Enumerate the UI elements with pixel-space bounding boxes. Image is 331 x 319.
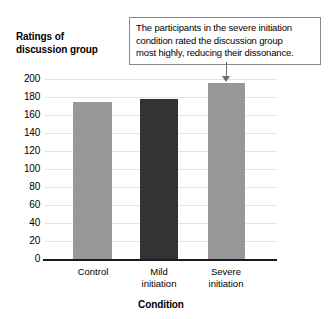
annotation-line-1: The participants in the severe initiatio…	[136, 22, 315, 35]
y-axis-ticks: 200 180 160 140 120 100 80 60 40 20 0	[8, 0, 40, 319]
y-tick-160: 160	[14, 110, 40, 120]
annotation-line-2: condition rated the discussion group	[136, 35, 315, 48]
bar-severe-initiation	[208, 83, 245, 259]
y-tick-200: 200	[14, 74, 40, 84]
annotation-arrow-head-icon	[222, 76, 230, 82]
y-tick-120: 120	[14, 146, 40, 156]
x-axis-line	[43, 259, 277, 261]
y-tick-60: 60	[14, 200, 40, 210]
gridline-200	[45, 79, 277, 80]
annotation-line-3: most highly, reducing their dissonance.	[136, 47, 315, 60]
y-tick-180: 180	[14, 92, 40, 102]
y-tick-0: 0	[14, 254, 40, 264]
y-tick-80: 80	[14, 182, 40, 192]
y-tick-20: 20	[14, 236, 40, 246]
y-tick-100: 100	[14, 164, 40, 174]
x-axis-title: Condition	[45, 299, 277, 310]
y-tick-40: 40	[14, 218, 40, 228]
plot-area	[45, 79, 277, 259]
annotation-callout: The participants in the severe initiatio…	[129, 17, 321, 65]
bar-mild-initiation	[140, 99, 178, 259]
chart-figure: Ratings of discussion group 200 180 160 …	[0, 0, 331, 319]
bar-control	[73, 102, 112, 259]
x-tick-label-severe-initiation: Severe initiation	[186, 266, 266, 290]
y-tick-140: 140	[14, 128, 40, 138]
